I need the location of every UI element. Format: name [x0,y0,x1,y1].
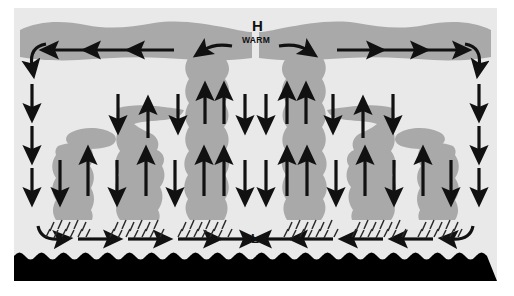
rain-shaft-3 [178,220,232,238]
label-high-pressure: H [252,18,263,33]
label-warm: WARM [242,36,270,45]
rain-shaft-6 [418,220,462,238]
rain-shaft-5 [352,220,406,238]
diagram-stage: H WARM L [0,0,514,296]
rain-shaft-4 [284,220,338,238]
cloud-puff-right [395,128,445,149]
label-low-pressure: L [251,232,259,245]
circulation-figure: H WARM L [14,8,497,281]
cloud-puff-left [66,128,116,149]
cloud-layer [20,22,491,220]
rain-shaft-1 [46,220,90,238]
surface-layer [14,253,497,282]
ocean-surface-band [14,253,497,282]
arrow-surface-curl-right [451,226,473,239]
rain-shaft-2 [110,220,164,238]
